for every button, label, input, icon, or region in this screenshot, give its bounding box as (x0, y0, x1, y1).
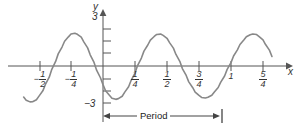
x-tick-label-neg-half: −12 (28, 70, 52, 90)
fraction: 14 (131, 70, 138, 90)
x-tick-label-three-quarters: 34 (192, 70, 206, 90)
x-axis (8, 63, 293, 70)
fraction: 12 (39, 70, 46, 90)
trigonometric-graph-figure: −12 −14 14 12 34 1 54 3 −3 y x Period (0, 0, 299, 129)
y-axis-label: y (93, 1, 98, 12)
x-tick-label-neg-quarter: −14 (59, 70, 83, 90)
period-label: Period (137, 110, 170, 121)
x-tick-label-five-quarters: 54 (256, 70, 270, 90)
cosine-curve (24, 33, 272, 102)
x-axis-label: x (288, 66, 293, 77)
fraction: 14 (70, 70, 77, 90)
y-tick-label-neg-three: −3 (84, 98, 95, 109)
fraction: 34 (195, 70, 202, 90)
y-tick-label-three: 3 (92, 11, 98, 22)
x-tick-label-one: 1 (224, 72, 238, 81)
fraction: 12 (163, 70, 170, 90)
fraction: 54 (259, 70, 266, 90)
x-tick-label-quarter: 14 (128, 70, 142, 90)
x-tick-label-half: 12 (160, 70, 174, 90)
